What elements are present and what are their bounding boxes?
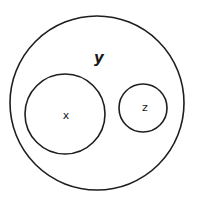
set-y: y [10, 16, 184, 190]
set-x-label: x [63, 109, 70, 122]
set-x: x [25, 74, 105, 154]
set-y-circle [10, 16, 184, 190]
set-y-label: y [94, 49, 105, 67]
set-z: z [119, 84, 167, 132]
set-diagram: y x z [0, 0, 198, 198]
set-z-label: z [142, 101, 148, 114]
